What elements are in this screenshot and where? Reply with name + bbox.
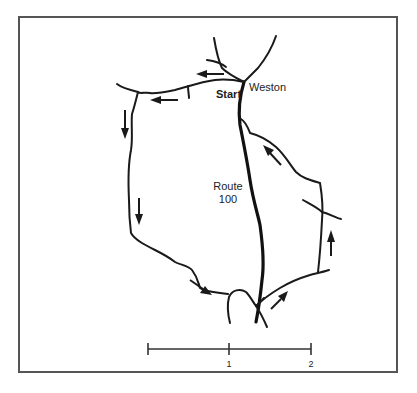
road-west-stub bbox=[188, 86, 189, 98]
arrow-northeast bbox=[271, 291, 288, 309]
arrow-west-1 bbox=[196, 70, 224, 78]
scale-label-1: 1 bbox=[226, 359, 231, 369]
scale-bar: 1 2 bbox=[148, 343, 314, 369]
road-spur bbox=[207, 60, 226, 67]
map-frame bbox=[19, 17, 397, 372]
road-east-bottom bbox=[256, 270, 329, 306]
road-north-right bbox=[244, 36, 276, 82]
arrow-down-2 bbox=[135, 198, 143, 225]
arrow-down-1 bbox=[121, 110, 129, 139]
weston-label: Weston bbox=[249, 81, 286, 93]
arrow-southeast bbox=[190, 280, 212, 295]
route-label-line1: Route bbox=[213, 180, 242, 192]
scale-label-2: 2 bbox=[308, 359, 313, 369]
route-label-line2: 100 bbox=[219, 193, 237, 205]
road-north-left bbox=[214, 38, 244, 82]
road-west-side bbox=[128, 92, 228, 294]
route-100-road bbox=[239, 82, 263, 322]
route-map: Start Weston Route 100 1 2 bbox=[0, 0, 417, 393]
arrow-up bbox=[327, 230, 335, 256]
arrow-west-2 bbox=[150, 96, 178, 104]
start-label: Start bbox=[216, 88, 241, 100]
